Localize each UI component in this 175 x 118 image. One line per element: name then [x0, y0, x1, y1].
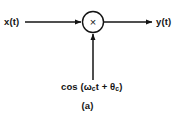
carrier-prefix: cos (: [61, 81, 84, 92]
carrier-suffix: ): [119, 81, 122, 92]
input-signal-label: x(t): [4, 17, 19, 27]
modulator-block-diagram: × x(t) y(t) cos (ωct + θc) (a): [0, 0, 175, 118]
output-signal-label: y(t): [156, 17, 171, 27]
carrier-plus-operator: +: [99, 81, 110, 92]
carrier-omega: ω: [84, 81, 92, 92]
carrier-signal-label: cos (ωct + θc): [61, 82, 123, 93]
multiply-icon: ×: [83, 12, 103, 32]
figure-caption: (a): [0, 101, 175, 111]
